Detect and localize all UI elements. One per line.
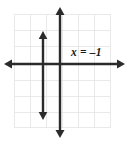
x-axis xyxy=(4,60,125,69)
equation-label: x = –1 xyxy=(70,46,102,58)
y-axis-arrow-up xyxy=(56,7,65,15)
y-axis xyxy=(56,7,65,138)
x-axis-arrow-left xyxy=(4,60,12,69)
graph-figure: x = –1 xyxy=(0,0,130,142)
y-axis-arrow-down xyxy=(56,130,65,138)
x-axis-arrow-right xyxy=(117,60,125,69)
grid-lines xyxy=(14,14,111,128)
coordinate-plane-svg: x = –1 xyxy=(0,0,130,142)
